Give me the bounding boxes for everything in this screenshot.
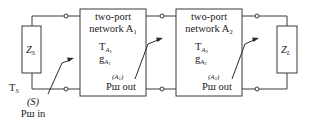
source-impedance: ZS	[22, 26, 41, 73]
network-a2-output-power: Pш out	[202, 81, 232, 92]
source-input-power: Pш in	[21, 108, 46, 119]
a2-ref-arrowhead-icon	[252, 38, 259, 43]
terminal-a2-in-bottom	[160, 87, 164, 91]
load-bottom-wire	[242, 73, 287, 89]
network-a1-output-power: Pш out	[106, 81, 136, 92]
load-top-wire	[242, 16, 287, 26]
network-a1-block: two-port network A1 TA1 gA1 (A1) Pш out	[80, 9, 146, 96]
wires	[32, 16, 287, 89]
terminal-load-bottom	[255, 87, 259, 91]
load-impedance: ZL	[277, 26, 297, 73]
network-a2-title-line2: network A2	[185, 23, 232, 35]
cascaded-two-port-noise-diagram: ZS ZL two-port network A1 TA1 gA1 (A1) P…	[0, 0, 312, 122]
network-a1-title-line1: two-port	[95, 11, 131, 22]
a1-ref-arrowhead-icon	[156, 38, 163, 43]
terminal-load-top	[255, 14, 259, 18]
terminal-a2-in-top	[160, 14, 164, 18]
source-ref-arrowhead-icon	[67, 58, 74, 63]
network-a2-block: two-port network A2 TA2 gA2 (A2) Pш out	[176, 9, 242, 96]
source-noise-temp: TS	[9, 82, 19, 94]
network-a1-title-line2: network A1	[89, 23, 136, 35]
terminal-a1-in-bottom	[64, 87, 68, 91]
network-a1-ref-label: (A1)	[112, 73, 124, 81]
network-a2-ref-label: (A2)	[208, 73, 220, 81]
terminal-a1-in-top	[64, 14, 68, 18]
source-top-wire	[32, 16, 80, 26]
network-a2-title-line1: two-port	[191, 11, 227, 22]
source-ref-label: (S)	[27, 96, 40, 108]
